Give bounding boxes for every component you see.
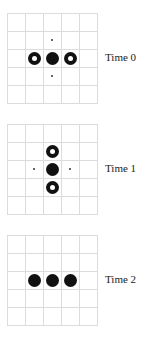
grid-cell [25, 160, 43, 178]
ring-circle-icon [46, 181, 59, 194]
grid-line [79, 124, 80, 215]
grid-line [7, 307, 98, 308]
panel-time-1: Time 1 [0, 124, 145, 234]
grid-line [7, 103, 98, 104]
grid-line [7, 13, 8, 104]
filled-circle-icon [64, 274, 77, 287]
ring-circle-icon [46, 145, 59, 158]
grid-line [7, 13, 98, 14]
grid-line [7, 253, 98, 254]
grid-cell [43, 31, 61, 49]
grid-cell [25, 49, 43, 67]
grid-cell [61, 271, 79, 289]
panel-label-time-1: Time 1 [105, 162, 136, 174]
panel-time-0: Time 0 [0, 13, 145, 123]
ring-circle-icon [28, 52, 41, 65]
grid-line [97, 235, 98, 326]
grid-cell [43, 49, 61, 67]
grid-line [7, 235, 98, 236]
grid-line [7, 214, 98, 215]
grid-cell [61, 160, 79, 178]
grid-time-2 [7, 235, 97, 325]
ring-circle-icon [64, 52, 77, 65]
grid-line [97, 124, 98, 215]
grid-time-1 [7, 124, 97, 214]
pip-marker-icon [69, 168, 71, 170]
grid-line [7, 85, 98, 86]
pip-marker-icon [51, 39, 53, 41]
panel-time-2: Time 2 [0, 235, 145, 337]
grid-line [7, 124, 8, 215]
grid-line [97, 13, 98, 104]
panel-label-time-2: Time 2 [105, 273, 136, 285]
grid-line [7, 235, 8, 326]
grid-cell [43, 142, 61, 160]
pip-marker-icon [33, 168, 35, 170]
grid-line [7, 124, 98, 125]
filled-circle-icon [46, 274, 59, 287]
grid-cell [43, 160, 61, 178]
pip-marker-icon [51, 75, 53, 77]
grid-line [79, 235, 80, 326]
grid-cell [43, 271, 61, 289]
grid-cell [61, 49, 79, 67]
panel-label-time-0: Time 0 [105, 51, 136, 63]
filled-circle-icon [28, 274, 41, 287]
grid-cell [43, 67, 61, 85]
grid-cell [25, 271, 43, 289]
grid-line [7, 325, 98, 326]
grid-line [7, 289, 98, 290]
grid-line [79, 13, 80, 104]
grid-line [7, 196, 98, 197]
filled-circle-icon [46, 163, 59, 176]
grid-time-0 [7, 13, 97, 103]
filled-circle-icon [46, 52, 59, 65]
grid-cell [43, 178, 61, 196]
